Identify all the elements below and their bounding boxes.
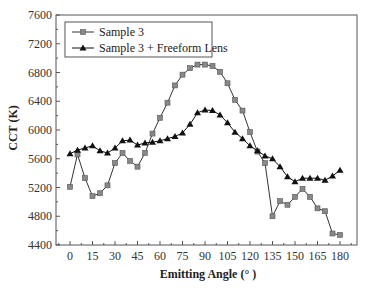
data-point (120, 151, 125, 156)
y-tick-label: 4800 (28, 209, 52, 223)
data-point (218, 69, 223, 74)
data-point (67, 150, 74, 156)
data-point (113, 161, 118, 166)
x-tick-label: 60 (154, 249, 166, 263)
data-point (128, 158, 133, 163)
y-tick-label: 6400 (28, 94, 52, 108)
data-point (248, 130, 253, 135)
data-point (307, 175, 314, 181)
x-axis: 0153045607590105120135150165180 (59, 241, 352, 263)
data-point (75, 152, 80, 157)
legend-label: Sample 3 + Freeform Lens (99, 41, 228, 55)
data-point (314, 175, 321, 181)
data-point (143, 151, 148, 156)
data-point (195, 62, 200, 67)
data-point (263, 161, 268, 166)
series-layer (67, 62, 344, 237)
y-tick-label: 5200 (28, 181, 52, 195)
data-point (285, 202, 290, 207)
data-point (233, 97, 238, 102)
data-point (292, 178, 299, 184)
data-point (68, 184, 73, 189)
series-sample-3-freeform-lens (67, 106, 344, 184)
x-tick-label: 0 (67, 249, 73, 263)
x-tick-label: 105 (219, 249, 237, 263)
data-point (315, 206, 320, 211)
x-tick-label: 165 (309, 249, 327, 263)
data-point (187, 121, 194, 127)
data-point (202, 106, 209, 112)
data-point (308, 194, 313, 199)
data-point (97, 147, 104, 153)
data-point (127, 137, 134, 143)
data-point (225, 81, 230, 86)
x-tick-label: 15 (87, 249, 99, 263)
x-tick-label: 75 (177, 249, 189, 263)
x-tick-label: 90 (199, 249, 211, 263)
x-tick-label: 45 (132, 249, 144, 263)
x-tick-label: 30 (109, 249, 121, 263)
y-tick-label: 7600 (28, 8, 52, 22)
y-tick-label: 6000 (28, 123, 52, 137)
data-point (278, 199, 283, 204)
y-tick-label: 4400 (28, 238, 52, 252)
data-point (262, 152, 269, 158)
data-point (337, 167, 344, 173)
data-point (338, 232, 343, 237)
data-point (203, 62, 208, 67)
data-point (150, 131, 155, 136)
data-point (173, 83, 178, 88)
x-tick-label: 150 (286, 249, 304, 263)
data-point (188, 66, 193, 71)
data-point (135, 164, 140, 169)
square-marker-icon (81, 30, 86, 35)
data-point (90, 194, 95, 199)
y-tick-label: 5600 (28, 152, 52, 166)
x-axis-title: Emitting Angle (° ) (160, 267, 256, 281)
data-point (172, 133, 179, 139)
data-point (299, 175, 306, 181)
y-tick-label: 6800 (28, 66, 52, 80)
series-sample-3 (68, 62, 343, 237)
data-point (300, 186, 305, 191)
y-axis-title: CCT (K) (6, 105, 20, 150)
x-tick-label: 180 (331, 249, 349, 263)
legend-label: Sample 3 (99, 25, 144, 39)
data-point (165, 100, 170, 105)
x-tick-label: 120 (241, 249, 259, 263)
data-point (83, 176, 88, 181)
x-tick-label: 135 (264, 249, 282, 263)
data-point (180, 72, 185, 77)
data-point (105, 183, 110, 188)
data-point (89, 142, 96, 148)
legend: Sample 3 Sample 3 + Freeform Lens (65, 22, 228, 57)
data-point (210, 64, 215, 69)
data-point (240, 108, 245, 113)
data-point (270, 214, 275, 219)
cct-line-chart: 440048005200560060006400680072007600 015… (0, 0, 368, 292)
data-point (330, 231, 335, 236)
data-point (217, 111, 224, 117)
y-axis: 440048005200560060006400680072007600 (28, 8, 60, 252)
data-point (329, 173, 336, 179)
data-point (323, 209, 328, 214)
data-point (158, 115, 163, 120)
data-point (293, 194, 298, 199)
y-tick-label: 7200 (28, 37, 52, 51)
data-point (98, 191, 103, 196)
